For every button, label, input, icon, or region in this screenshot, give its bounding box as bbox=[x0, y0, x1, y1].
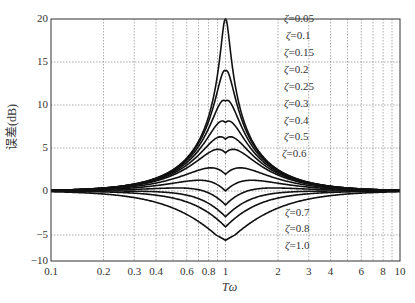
legend-value: =0.6 bbox=[286, 147, 306, 159]
legend-value: =0.05 bbox=[288, 12, 313, 24]
legend-item: ζ=0.5 bbox=[284, 130, 308, 142]
legend-value: =0.7 bbox=[289, 206, 309, 218]
legend-value: =1.0 bbox=[289, 239, 309, 251]
x-tick-label: 4 bbox=[328, 265, 334, 277]
x-tick-label: 0.4 bbox=[149, 265, 163, 277]
legend-value: =0.5 bbox=[288, 130, 308, 142]
legend-item: ζ=0.3 bbox=[284, 97, 308, 109]
y-tick-label: 10 bbox=[20, 98, 48, 110]
legend-item: ζ=0.05 bbox=[284, 12, 314, 24]
x-tick-label: 2 bbox=[275, 265, 281, 277]
y-tick-label: 5 bbox=[20, 141, 48, 153]
legend-item: ζ=0.2 bbox=[284, 63, 308, 75]
x-tick-label: 0.2 bbox=[97, 265, 111, 277]
x-tick-label: 1 bbox=[223, 265, 229, 277]
x-tick-label: 0.3 bbox=[127, 265, 141, 277]
curve-ζ=0.05 bbox=[51, 19, 400, 190]
legend-item: ζ=0.7 bbox=[285, 206, 309, 218]
legend-value: =0.3 bbox=[288, 97, 308, 109]
y-tick-label: −5 bbox=[20, 228, 48, 240]
legend-value: =0.15 bbox=[288, 46, 313, 58]
bode-error-chart bbox=[0, 0, 415, 303]
legend-value: =0.1 bbox=[290, 29, 310, 41]
legend-value: =0.25 bbox=[288, 80, 313, 92]
x-tick-label: 8 bbox=[380, 265, 386, 277]
x-axis-label: Tω bbox=[222, 280, 237, 295]
legend-value: =0.8 bbox=[289, 222, 309, 234]
legend-value: =0.4 bbox=[288, 114, 308, 126]
legend-item: ζ=0.4 bbox=[284, 114, 308, 126]
legend-item: ζ=0.15 bbox=[284, 46, 314, 58]
y-tick-label: 15 bbox=[20, 55, 48, 67]
legend-item: ζ=0.8 bbox=[285, 222, 309, 234]
y-tick-label: 20 bbox=[20, 12, 48, 24]
legend-item: ζ=1.0 bbox=[285, 239, 309, 251]
x-tick-label: 10 bbox=[395, 265, 406, 277]
x-tick-label: 0.6 bbox=[180, 265, 194, 277]
legend-value: =0.2 bbox=[288, 63, 308, 75]
x-tick-label: 0.1 bbox=[44, 265, 58, 277]
x-tick-label: 3 bbox=[306, 265, 312, 277]
legend-item: ζ=0.25 bbox=[284, 80, 314, 92]
legend-item: ζ=0.6 bbox=[282, 147, 306, 159]
x-tick-label: 6 bbox=[359, 265, 365, 277]
x-tick-label: 0.8 bbox=[202, 265, 216, 277]
y-tick-label: 0 bbox=[20, 184, 48, 196]
y-axis-label: 误差(dB) bbox=[2, 104, 20, 150]
legend-item: ζ=0.1 bbox=[286, 29, 310, 41]
